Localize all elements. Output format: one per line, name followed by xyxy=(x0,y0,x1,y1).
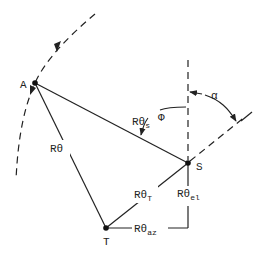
label-phi: Φ xyxy=(158,112,165,124)
arc-arrow-icon xyxy=(30,85,36,95)
label-T: T xyxy=(103,236,110,248)
point-S xyxy=(185,160,191,166)
phi-arc xyxy=(160,107,186,110)
alpha-arc-start xyxy=(190,92,202,94)
alpha-arc xyxy=(205,95,236,121)
edge-A-T xyxy=(35,83,106,228)
arc-arrow-icon xyxy=(54,41,61,52)
alpha-direction-line xyxy=(190,116,246,161)
geometry-diagram: A S T Rθs Rθ RθT Rθaz Rθel Φ α xyxy=(0,0,264,257)
label-S: S xyxy=(196,161,203,173)
label-R-theta: Rθ xyxy=(50,143,63,155)
point-T xyxy=(103,225,109,231)
point-A xyxy=(32,80,38,86)
label-alpha: α xyxy=(211,90,218,102)
alpha-tick xyxy=(241,112,252,121)
label-A: A xyxy=(20,79,27,91)
